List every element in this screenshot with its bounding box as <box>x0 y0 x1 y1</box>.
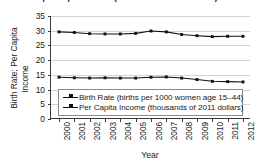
data-point-marker <box>150 30 153 33</box>
x-tick-label: 2003 <box>109 122 118 140</box>
x-tick-label: 2012 <box>247 122 256 140</box>
x-tick-label: 2002 <box>93 122 102 140</box>
data-point-marker <box>196 78 199 81</box>
data-point-marker <box>165 30 168 33</box>
x-tick-label: 2000 <box>63 122 72 140</box>
x-tick-label: 2011 <box>231 122 240 140</box>
plot-area: 05101520253035 2000200120022003200420052… <box>50 16 250 119</box>
x-axis-title: Year <box>50 150 250 160</box>
y-tick-label: 5 <box>40 99 45 109</box>
x-tick-label: 2007 <box>170 122 179 140</box>
data-point-marker <box>134 77 137 80</box>
legend-label-birth-rate: Birth Rate (births per 1000 women age 15… <box>79 93 243 102</box>
legend-marker-icon <box>62 103 79 112</box>
y-axis-title-line1: Birth Rate; Per Capita <box>9 11 19 126</box>
data-point-marker <box>165 75 168 78</box>
data-point-marker <box>104 33 107 36</box>
x-tick-label: 2010 <box>216 122 225 140</box>
y-tick-label: 0 <box>40 114 45 124</box>
x-tick-label: 2005 <box>139 122 148 140</box>
data-point-marker <box>226 80 229 83</box>
chart-container: per Capita Income (thousands of 2011 dol… <box>0 0 260 163</box>
legend-marker-icon <box>62 93 79 102</box>
data-point-marker <box>104 76 107 79</box>
y-axis-title: Birth Rate; Per Capita Income <box>0 8 26 123</box>
y-tick-label: 10 <box>36 85 45 95</box>
x-tick-label: 2004 <box>124 122 133 140</box>
chart-legend: Birth Rate (births per 1000 women age 15… <box>58 89 243 117</box>
data-point-marker <box>119 33 122 36</box>
data-point-marker <box>180 77 183 80</box>
x-tick-label: 2001 <box>78 122 87 140</box>
data-point-marker <box>88 32 91 35</box>
x-tick-label: 2009 <box>201 122 210 140</box>
x-tick-label: 2006 <box>155 122 164 140</box>
data-point-marker <box>242 35 245 38</box>
y-tick-label: 15 <box>36 70 45 80</box>
data-point-marker <box>150 76 153 79</box>
data-point-marker <box>211 35 214 38</box>
y-tick-label: 25 <box>36 40 45 50</box>
y-tick-label: 20 <box>36 55 45 65</box>
legend-label-per-capita-income: Per Capita Income (thousands of 2011 dol… <box>79 103 244 112</box>
data-point-marker <box>119 77 122 80</box>
data-point-marker <box>73 76 76 79</box>
y-axis-title-line2: Income <box>20 22 30 137</box>
data-point-marker <box>73 31 76 34</box>
data-point-marker <box>242 80 245 83</box>
y-tick-label: 35 <box>36 11 45 21</box>
data-point-marker <box>58 30 61 33</box>
data-point-marker <box>211 80 214 83</box>
data-point-marker <box>196 34 199 37</box>
data-point-marker <box>134 32 137 35</box>
data-point-marker <box>226 35 229 38</box>
chart-title: per Capita Income (thousands of 2011 dol… <box>0 0 260 2</box>
y-tick-label: 30 <box>36 26 45 36</box>
data-point-marker <box>180 33 183 36</box>
data-point-marker <box>58 76 61 79</box>
y-tick-mark <box>48 119 52 120</box>
legend-item-per-capita-income: Per Capita Income (thousands of 2011 dol… <box>62 102 239 112</box>
legend-item-birth-rate: Birth Rate (births per 1000 women age 15… <box>62 92 239 102</box>
data-point-marker <box>88 77 91 80</box>
x-tick-label: 2008 <box>185 122 194 140</box>
